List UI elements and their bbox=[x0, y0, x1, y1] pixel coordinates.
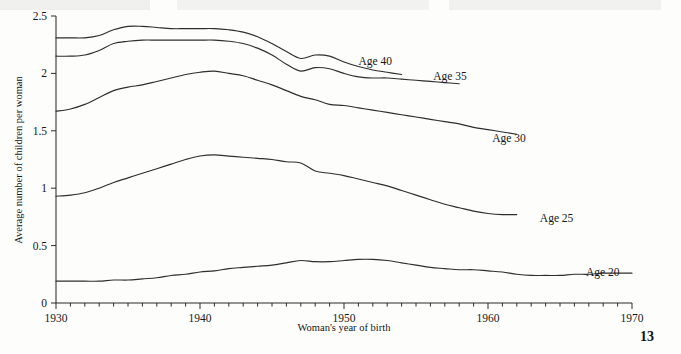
y-tick-label: 1 bbox=[41, 182, 47, 194]
x-tick-label: 1940 bbox=[189, 312, 212, 324]
x-axis-title: Woman's year of birth bbox=[298, 322, 392, 333]
chart-figure: 00.511.522.5 19301940195019601970 Age 40… bbox=[0, 0, 681, 354]
series-label-age-35: Age 35 bbox=[433, 70, 467, 83]
data-series-group bbox=[56, 26, 632, 281]
y-tick-label: 0.5 bbox=[33, 240, 48, 252]
series-line-age-40 bbox=[56, 26, 402, 75]
y-axis-ticks bbox=[51, 16, 56, 303]
series-label-age-25: Age 25 bbox=[540, 212, 574, 225]
x-tick-label: 1960 bbox=[477, 312, 500, 324]
y-tick-label: 0 bbox=[41, 297, 47, 309]
y-tick-label: 2 bbox=[41, 67, 47, 79]
page-number: 13 bbox=[640, 329, 654, 345]
y-tick-label: 1.5 bbox=[33, 125, 48, 137]
series-label-age-20: Age 20 bbox=[586, 266, 620, 279]
series-line-age-20 bbox=[56, 259, 632, 281]
x-tick-label: 1930 bbox=[45, 312, 68, 324]
x-tick-label: 1970 bbox=[621, 312, 644, 324]
y-axis-title: Average number of children per woman bbox=[13, 76, 24, 244]
line-chart-svg: 00.511.522.5 19301940195019601970 Age 40… bbox=[0, 0, 681, 354]
series-label-age-40: Age 40 bbox=[358, 55, 392, 68]
series-line-age-35 bbox=[56, 40, 459, 84]
series-inline-labels: Age 40Age 35Age 30Age 25Age 20 bbox=[358, 55, 619, 279]
series-label-age-30: Age 30 bbox=[492, 132, 526, 145]
series-line-age-25 bbox=[56, 155, 517, 215]
y-tick-label: 2.5 bbox=[33, 10, 48, 22]
y-axis-tick-labels: 00.511.522.5 bbox=[33, 10, 48, 309]
